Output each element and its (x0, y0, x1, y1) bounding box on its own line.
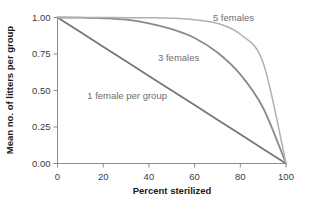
series-annotation-label: 5 females (213, 12, 254, 23)
y-tick-label: 1.00 (32, 12, 51, 23)
y-tick-label: 0.00 (32, 158, 51, 169)
x-tick-label: 20 (98, 171, 109, 182)
x-tick-label: 100 (278, 171, 294, 182)
y-tick-label: 0.50 (32, 85, 51, 96)
y-tick-label: 0.25 (32, 121, 51, 132)
y-axis-title-text: Mean no. of litters per group (4, 26, 15, 154)
x-tick-label: 60 (189, 171, 200, 182)
x-tick-label: 0 (55, 171, 60, 182)
x-axis-title-text: Percent sterilized (133, 185, 212, 196)
y-tick-label: 0.75 (32, 48, 51, 59)
x-tick-label: 40 (144, 171, 155, 182)
series-annotation-label: 1 female per group (87, 90, 167, 101)
series-annotation-label: 3 females (158, 52, 199, 63)
litters-vs-sterilization-chart: Mean no. of litters per group 0.000.250.… (0, 0, 311, 208)
y-tick-labels: 0.000.250.500.751.00 (32, 12, 51, 169)
series-annotations: 5 females3 females1 female per group (87, 12, 254, 100)
chart-container: Mean no. of litters per group 0.000.250.… (0, 0, 311, 208)
y-axis-title: Mean no. of litters per group (4, 26, 15, 154)
x-tick-label: 80 (235, 171, 246, 182)
x-tick-labels: 020406080100 (55, 171, 294, 182)
